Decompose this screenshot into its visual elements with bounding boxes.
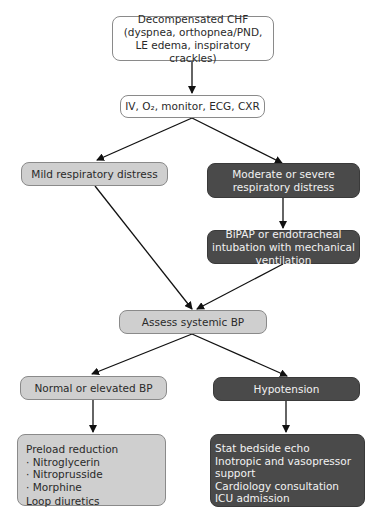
treatment-line: Cardiology consultation — [215, 480, 360, 493]
treatment-line: ICU admission — [215, 492, 360, 505]
node-hypotension: Hypotension — [213, 377, 360, 401]
node-initial-workup: IV, O₂, monitor, ECG, CXR — [120, 95, 265, 118]
treatment-line: Stat bedside echo — [215, 442, 360, 455]
treatment-line: Preload reduction — [26, 443, 157, 456]
treatment-line: Inotropic and vasopressor support — [215, 455, 360, 480]
node-ventilation: BiPAP or endotracheal intubation with me… — [207, 230, 360, 264]
node-normal-bp: Normal or elevated BP — [20, 376, 167, 400]
treatment-line: Loop diuretics — [26, 495, 157, 508]
treatment-line: · Nitroglycerin — [26, 456, 157, 469]
node-mild-distress: Mild respiratory distress — [21, 162, 168, 186]
treatment-line: · Nitroprusside — [26, 468, 157, 481]
node-severe-distress: Moderate or severe respiratory distress — [207, 163, 360, 198]
node-normal-bp-treatment: Preload reduction · Nitroglycerin · Nitr… — [17, 434, 166, 506]
node-assess-bp: Assess systemic BP — [119, 310, 267, 334]
node-decompensated-chf: Decompensated CHF (dyspnea, orthopnea/PN… — [112, 16, 274, 61]
node-hypotension-treatment: Stat bedside echo Inotropic and vasopres… — [210, 434, 365, 507]
treatment-line: · Morphine — [26, 481, 157, 494]
